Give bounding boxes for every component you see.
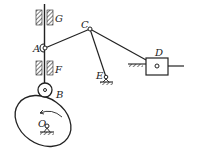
link-AC: [45, 29, 90, 48]
joint-A: [40, 44, 47, 52]
mechanism-diagram: G A F B O C E D: [0, 0, 197, 155]
label-G: G: [55, 13, 63, 24]
roller-B: [38, 83, 52, 97]
label-F: F: [54, 64, 63, 75]
label-D: D: [154, 47, 163, 58]
label-C: C: [81, 19, 89, 30]
label-E: E: [95, 70, 104, 81]
label-O: O: [38, 118, 46, 129]
label-B: B: [55, 89, 63, 100]
slider-D: [128, 58, 184, 75]
label-A: A: [32, 43, 40, 54]
